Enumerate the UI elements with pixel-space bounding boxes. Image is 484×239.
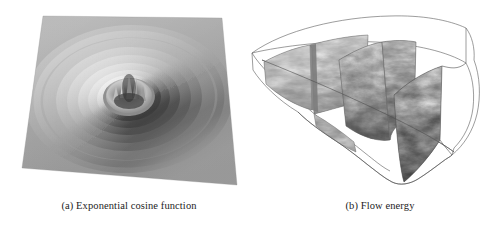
panel-a-caption: (a) Exponential cosine function [0,200,254,211]
flow-slice-3 [339,42,390,140]
plate-grain [22,16,237,185]
flow-energy-plot [244,0,484,200]
box-right-face-edge [454,63,474,148]
slice-3-shading [339,42,390,140]
box-left-back-vertical [252,53,253,70]
box-right-upper-join [442,63,466,68]
box-right-outer-edge [452,60,479,155]
figure-panel-a: (a) Exponential cosine function [0,0,250,239]
ripple-group [21,16,237,185]
panel-b-svg [244,0,484,200]
surface-plot-exponential-cosine [0,0,250,200]
box-right-lower-join [440,140,452,155]
figure-panel-b: (b) Flow energy [244,0,484,239]
panel-b-caption: (b) Flow energy [244,200,484,211]
figure-container: (a) Exponential cosine function [0,0,484,239]
box-right-back-curve [466,28,474,60]
flow-energy-scene [252,16,479,184]
panel-a-svg [0,0,250,200]
surface-plate [21,16,237,185]
